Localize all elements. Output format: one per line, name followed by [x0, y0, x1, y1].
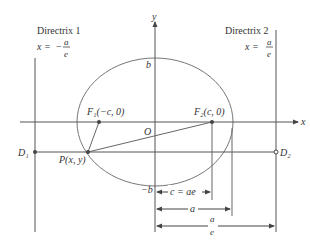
directrix-1-eq-sign: − [56, 41, 62, 52]
pf1-segment [88, 122, 99, 152]
directrix-2-eq-lhs: x = [244, 41, 259, 52]
directrix-1-eq-den: e [64, 49, 68, 59]
directrix-1-eq-num: a [64, 37, 69, 47]
origin-label: O [144, 126, 151, 137]
directrix-1-title: Directrix 1 [37, 25, 81, 36]
directrix-2-eq-num: a [267, 37, 272, 47]
directrix-2-eq-den: e [267, 49, 271, 59]
dim-a-over-e-num: a [210, 214, 215, 224]
p-point [86, 150, 90, 154]
dim-a-over-e-den: e [210, 227, 214, 237]
directrix-2-title: Directrix 2 [225, 25, 269, 36]
f2-point [210, 120, 214, 124]
d1-point [33, 150, 37, 154]
y-axis-label: y [151, 11, 157, 22]
x-axis-label: x [300, 116, 306, 127]
directrix-1-eq-lhs: x = [36, 41, 51, 52]
f1-point [97, 120, 101, 124]
neg-b-intercept-label: −b [141, 184, 153, 195]
b-intercept-label: b [146, 59, 151, 70]
ellipse-diagram: Directrix 1 x = − a e Directrix 2 x = a … [0, 0, 310, 247]
dim-c-label: c = ae [170, 186, 196, 197]
f1-label: F₁(−c, 0) [86, 106, 125, 118]
p-label: P(x, y) [58, 154, 86, 166]
d2-point [274, 150, 278, 154]
d1-label: D₁ [17, 147, 29, 158]
f2-label: F₂(c, 0) [193, 106, 225, 118]
dim-a-label: a [190, 203, 195, 214]
d2-label: D₂ [279, 147, 291, 158]
